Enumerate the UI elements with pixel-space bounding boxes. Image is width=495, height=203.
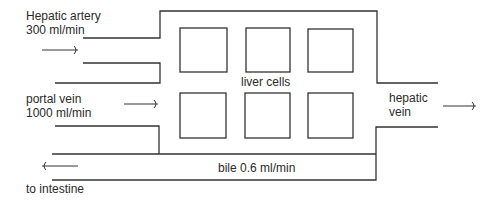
portal-bile-divider — [55, 126, 159, 154]
portal-flow-arrow-icon — [124, 100, 158, 108]
to-intestine-label: to intestine — [26, 182, 84, 196]
liver-cell — [245, 93, 290, 138]
liver-cell — [308, 29, 353, 72]
liver-cell — [180, 28, 227, 72]
liver-cells-label: liver cells — [241, 75, 290, 89]
hepatic-artery-flow-label: 300 ml/min — [26, 23, 85, 37]
portal-vein-flow-label: 1000 ml/min — [26, 106, 91, 120]
artery-portal-divider — [55, 63, 160, 83]
liver-cell — [180, 93, 226, 138]
artery-flow-arrow-icon — [42, 46, 78, 54]
bile-flow-arrow-icon — [42, 162, 78, 170]
hepatic-artery-label: Hepatic artery — [26, 9, 101, 23]
portal-vein-label: portal vein — [26, 92, 81, 106]
liver-cell — [308, 93, 353, 138]
liver-flow-diagram: Hepatic artery 300 ml/min portal vein 10… — [0, 0, 495, 203]
liver-cell — [246, 28, 290, 72]
bile-flow-label: bile 0.6 ml/min — [218, 161, 295, 175]
hepatic-vein-flow-arrow-icon — [443, 102, 476, 110]
hepatic-vein-label-line2: vein — [389, 105, 411, 119]
hepatic-vein-label-line1: hepatic — [389, 91, 428, 105]
